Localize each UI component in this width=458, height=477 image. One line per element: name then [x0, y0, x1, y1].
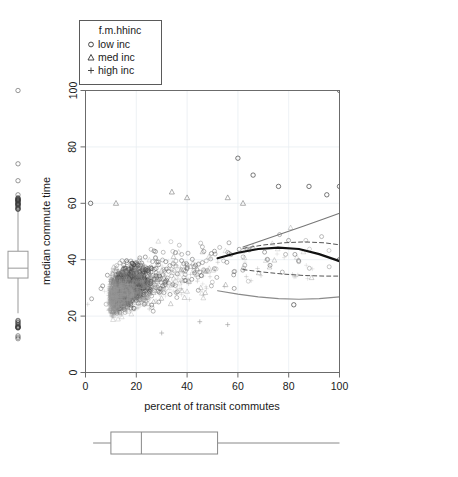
- x-axis-tick-label: 100: [331, 380, 349, 392]
- x-axis-tick-label: 0: [83, 380, 89, 392]
- legend-label: med inc: [98, 51, 135, 63]
- scatter-plot-figure: 020406080100020406080100 percent of tran…: [0, 0, 458, 477]
- legend-label: low inc: [98, 38, 130, 50]
- x-box-iqr: [111, 432, 218, 454]
- y-axis-tick-label: 60: [67, 197, 79, 209]
- legend-title: f.m.hhinc: [99, 24, 142, 36]
- x-axis-tick-label: 60: [232, 380, 244, 392]
- y-box-iqr: [8, 251, 28, 278]
- figure-container: 020406080100020406080100 percent of tran…: [0, 0, 458, 477]
- x-axis-tick-label: 80: [283, 380, 295, 392]
- y-axis-tick-label: 20: [67, 310, 79, 322]
- y-axis-tick-label: 100: [67, 82, 79, 100]
- x-axis-label: percent of transit commutes: [144, 400, 280, 412]
- x-axis-tick-label: 40: [181, 380, 193, 392]
- legend-label: high inc: [98, 64, 134, 76]
- y-axis-tick-label: 40: [67, 254, 79, 266]
- x-axis-tick-label: 20: [130, 380, 142, 392]
- y-axis-tick-label: 80: [67, 141, 79, 153]
- y-axis-label: median commute time: [40, 177, 52, 285]
- y-axis-tick-label: 0: [67, 369, 79, 375]
- legend: f.m.hhinc low incmed inchigh inc: [80, 21, 162, 85]
